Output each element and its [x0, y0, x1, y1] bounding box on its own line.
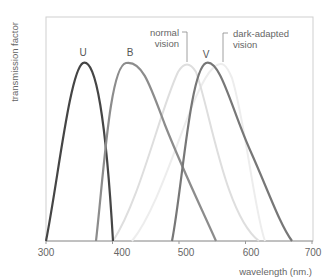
x-tick-700: 700 [305, 247, 322, 258]
curve-v [172, 63, 292, 241]
normal-vision-leader [182, 32, 187, 62]
x-tick-400: 400 [114, 247, 131, 258]
x-tick-500: 500 [178, 247, 195, 258]
x-axis-label: wavelength (nm.) [238, 266, 312, 277]
dark-adapted-leader [223, 33, 228, 62]
label-u: U [79, 47, 86, 58]
curve-b [96, 63, 216, 241]
label-b: B [127, 47, 134, 58]
x-tick-300: 300 [38, 247, 55, 258]
label-dark-line2: vision [233, 39, 257, 50]
label-normal-line2: vision [155, 38, 179, 49]
y-axis-label: transmission factor [9, 22, 20, 102]
label-normal-line1: normal [150, 27, 179, 38]
transmission-chart: U B V normal vision dark-adapted vision … [0, 0, 329, 279]
curve-normal-vision [113, 65, 259, 242]
label-v: V [203, 49, 210, 60]
x-tick-600: 600 [243, 247, 260, 258]
label-dark-line1: dark-adapted [233, 28, 289, 39]
curve-u [46, 63, 113, 241]
